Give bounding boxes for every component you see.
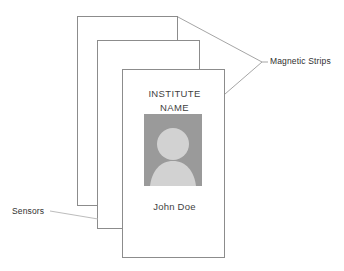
person-avatar-icon (144, 114, 202, 186)
diagram-canvas: INSTITUTE NAME John Doe Magnetic Strips … (0, 0, 344, 271)
cardholder-name-text: John Doe (123, 201, 226, 212)
cardholder-photo (144, 114, 202, 186)
institute-name-text: INSTITUTE NAME (123, 87, 226, 114)
annotation-sensors: Sensors (12, 206, 44, 216)
leader-line-sensors (50, 211, 98, 219)
leader-line-magnetic-front (225, 62, 262, 94)
front-card: INSTITUTE NAME John Doe (122, 69, 225, 258)
annotation-magnetic-strips: Magnetic Strips (270, 56, 331, 66)
